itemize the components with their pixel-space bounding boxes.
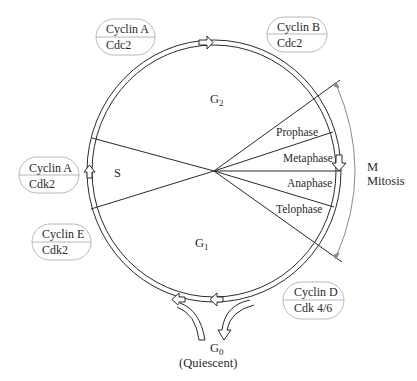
complex-cyclin-e-cdk2: Cyclin E Cdk2 xyxy=(32,224,91,260)
phase-g0-label: G0 xyxy=(210,341,224,357)
arrow-up-icon xyxy=(334,82,339,88)
svg-text:Cdk2: Cdk2 xyxy=(42,243,68,257)
phase-g0-note: (Quiescent) xyxy=(179,356,237,370)
svg-text:Cyclin B: Cyclin B xyxy=(277,20,320,34)
svg-text:Cdk2: Cdk2 xyxy=(29,177,55,191)
g0-branch xyxy=(177,300,254,340)
arrow-down-icon xyxy=(334,253,339,259)
svg-text:Cyclin A: Cyclin A xyxy=(106,22,149,36)
complex-cyclin-b-cdc2: Cyclin B Cdc2 xyxy=(267,17,327,52)
svg-text:Cyclin E: Cyclin E xyxy=(42,227,84,241)
phase-s-label: S xyxy=(114,166,121,180)
arrow-s-icon xyxy=(84,165,95,178)
complex-cyclin-a-cdc2: Cyclin A Cdc2 xyxy=(96,19,155,55)
arrow-to-g0-icon xyxy=(218,300,254,340)
subphase-anaphase: Anaphase xyxy=(287,177,332,190)
sector-lines xyxy=(91,80,342,262)
complex-cyclin-a-cdk2: Cyclin A Cdk2 xyxy=(19,157,79,193)
svg-text:Cyclin D: Cyclin D xyxy=(294,285,338,299)
arrow-m-icon xyxy=(332,155,346,171)
complex-cyclin-d-cdk46: Cyclin D Cdk 4/6 xyxy=(283,282,344,319)
phase-g2-label: G2 xyxy=(210,92,224,108)
subphase-telophase: Telophase xyxy=(276,203,322,216)
arrow-g1-right-icon xyxy=(210,293,223,306)
cell-cycle-diagram: G2 S G1 G0 (Quiescent) Prophase Metaphas… xyxy=(0,0,417,381)
svg-text:Cdc2: Cdc2 xyxy=(277,36,302,50)
m-label: M xyxy=(367,160,378,174)
subphase-metaphase: Metaphase xyxy=(283,152,333,165)
svg-text:Cdk 4/6: Cdk 4/6 xyxy=(294,301,332,315)
subphase-prophase: Prophase xyxy=(276,126,318,139)
arrow-g2-icon xyxy=(199,36,213,49)
mitosis-label: Mitosis xyxy=(367,174,405,188)
phase-g1-label: G1 xyxy=(195,236,209,252)
svg-text:Cdc2: Cdc2 xyxy=(106,38,131,52)
svg-text:Cyclin A: Cyclin A xyxy=(29,161,72,175)
